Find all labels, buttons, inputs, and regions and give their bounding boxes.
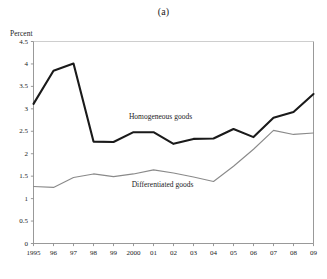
y-axis-tick-label: 2.5 bbox=[6, 127, 28, 135]
x-axis-tick-label: 06 bbox=[250, 249, 257, 257]
y-axis-tick-label: 1 bbox=[6, 195, 28, 203]
y-axis-tick-label: 4 bbox=[6, 60, 28, 68]
x-axis-tick-label: 08 bbox=[290, 249, 297, 257]
x-axis-tick-label: 04 bbox=[210, 249, 217, 257]
x-axis-tick-label: 1995 bbox=[27, 249, 41, 257]
x-axis-tick-label: 02 bbox=[170, 249, 177, 257]
x-axis-tick-label: 98 bbox=[90, 249, 97, 257]
x-axis-tick-label: 2000 bbox=[127, 249, 141, 257]
x-axis-tick-label: 01 bbox=[150, 249, 157, 257]
x-axis-tick-label: 07 bbox=[270, 249, 277, 257]
y-axis-tick-label: 1.5 bbox=[6, 172, 28, 180]
y-axis-tick-label: 0.5 bbox=[6, 217, 28, 225]
y-axis-tick-label: 4.5 bbox=[6, 38, 28, 46]
y-axis-tick-label: 2 bbox=[6, 150, 28, 158]
x-axis-tick-label: 99 bbox=[110, 249, 117, 257]
figure-panel: (a) Percent 00.511.522.533.544.519959697… bbox=[0, 0, 327, 279]
y-axis-tick-label: 3.5 bbox=[6, 82, 28, 90]
series-annotation-homogeneous-goods: Homogeneous goods bbox=[129, 112, 192, 121]
chart-svg bbox=[0, 0, 327, 279]
x-axis-tick-label: 96 bbox=[50, 249, 57, 257]
x-axis-tick-label: 05 bbox=[230, 249, 237, 257]
chart-plot-area: 00.511.522.533.544.519959697989920000102… bbox=[0, 0, 327, 279]
series-annotation-differentiated-goods: Differentiated goods bbox=[132, 179, 194, 188]
x-axis-tick-label: 09 bbox=[310, 249, 317, 257]
x-axis-tick-label: 03 bbox=[190, 249, 197, 257]
y-axis-tick-label: 3 bbox=[6, 105, 28, 113]
y-axis-tick-label: 0 bbox=[6, 240, 28, 248]
x-axis-tick-label: 97 bbox=[70, 249, 77, 257]
